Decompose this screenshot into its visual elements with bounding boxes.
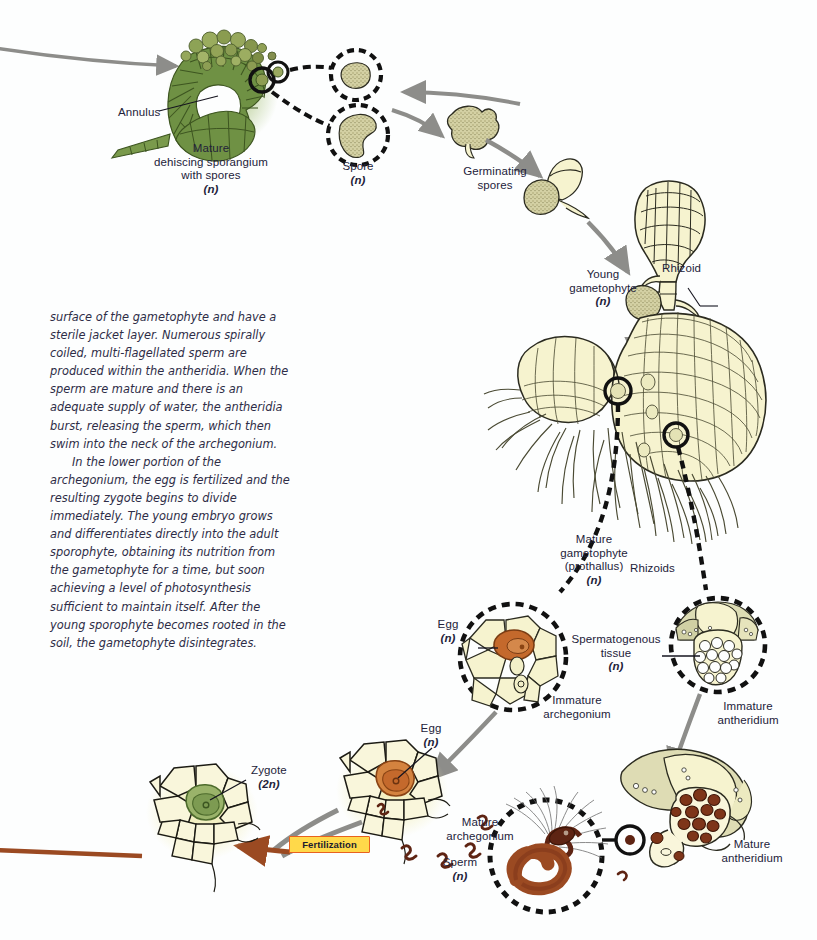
label-egg-mature-text: Egg bbox=[421, 722, 442, 734]
label-sperm-ploidy: (n) bbox=[453, 870, 468, 882]
label-spermatogenous-tissue-text: Spermatogenous tissue bbox=[572, 633, 661, 659]
label-rhizoid: Rhizoid bbox=[662, 262, 701, 276]
body-paragraph-2: In the lower portion of the archegonium,… bbox=[50, 453, 296, 652]
label-spore-text: Spore bbox=[342, 160, 373, 172]
label-mature-archegonium: Mature archegonium bbox=[428, 816, 532, 843]
label-zygote: Zygote (2n) bbox=[241, 764, 297, 791]
label-zygote-ploidy: (2n) bbox=[258, 778, 279, 790]
label-spore-ploidy: (n) bbox=[351, 174, 366, 186]
label-spermatogenous-tissue-ploidy: (n) bbox=[609, 660, 624, 672]
arrow-fertilization-to-zygote bbox=[238, 846, 290, 852]
spore-circle-upper bbox=[331, 50, 381, 100]
fern-life-cycle-figure: Annulus Mature dehiscing sporangium with… bbox=[0, 0, 817, 940]
label-young-gametophyte-text: Young gametophyte bbox=[569, 268, 637, 294]
label-young-gametophyte-ploidy: (n) bbox=[596, 295, 611, 307]
label-egg-mature-ploidy: (n) bbox=[424, 736, 439, 748]
fertilization-banner: Fertilization bbox=[289, 836, 370, 853]
mature-gametophyte-illustration bbox=[484, 312, 766, 544]
magnifier-ring-sperm bbox=[602, 826, 644, 854]
label-mature-gametophyte-text: Mature gametophyte (prothallus) bbox=[560, 533, 628, 572]
germinating-spore-1 bbox=[448, 106, 499, 158]
label-germinating-spores: Germinating spores bbox=[440, 165, 550, 192]
arrow-germinating-to-young bbox=[588, 222, 628, 272]
arrow-outgoing-sporophyte bbox=[0, 850, 142, 856]
label-mature-sporangium-ploidy: (n) bbox=[204, 183, 219, 195]
immature-antheridium-circle bbox=[662, 598, 765, 692]
label-egg-archegonium-text: Egg bbox=[438, 618, 459, 630]
fertilization-banner-label: Fertilization bbox=[302, 839, 357, 850]
label-mature-sporangium: Mature dehiscing sporangium with spores … bbox=[128, 142, 294, 196]
label-spore: Spore (n) bbox=[318, 160, 398, 187]
sperm-detail-circle bbox=[490, 786, 608, 912]
label-young-gametophyte: Young gametophyte (n) bbox=[548, 268, 658, 309]
label-rhizoids: Rhizoids bbox=[630, 562, 675, 576]
label-spermatogenous-tissue: Spermatogenous tissue (n) bbox=[562, 633, 670, 674]
body-text-block: surface of the gametophyte and have a st… bbox=[50, 308, 296, 652]
label-immature-archegonium: Immature archegonium bbox=[522, 694, 632, 721]
label-sperm: Sperm (n) bbox=[432, 856, 488, 883]
label-mature-gametophyte: Mature gametophyte (prothallus) (n) bbox=[540, 533, 648, 587]
body-paragraph-1: surface of the gametophyte and have a st… bbox=[50, 308, 296, 453]
label-egg-mature: Egg (n) bbox=[408, 722, 454, 749]
spore-circle-lower bbox=[328, 105, 388, 165]
label-mature-antheridium: Mature antheridium bbox=[700, 838, 804, 865]
label-egg-archegonium: Egg (n) bbox=[425, 618, 471, 645]
label-egg-archegonium-ploidy: (n) bbox=[441, 632, 456, 644]
label-annulus: Annulus bbox=[118, 106, 160, 120]
label-zygote-text: Zygote bbox=[251, 764, 287, 776]
label-mature-gametophyte-ploidy: (n) bbox=[587, 574, 602, 586]
label-mature-sporangium-text: Mature dehiscing sporangium with spores bbox=[154, 142, 268, 181]
label-sperm-text: Sperm bbox=[443, 856, 477, 868]
arrow-incoming-sporophyte bbox=[0, 48, 176, 66]
label-immature-antheridium: Immature antheridium bbox=[694, 700, 802, 727]
